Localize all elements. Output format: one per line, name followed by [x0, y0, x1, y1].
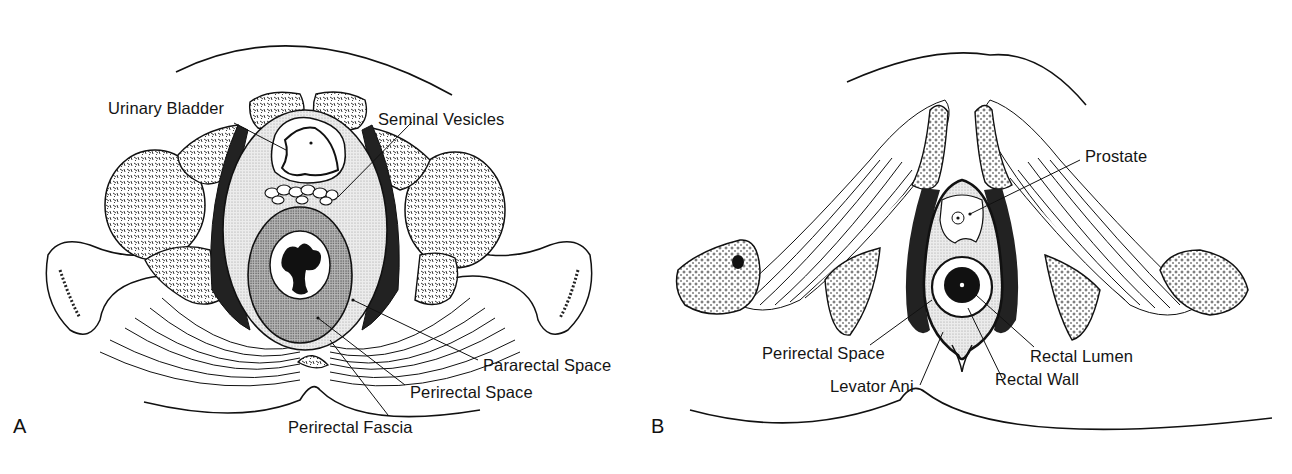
label-levator-ani: Levator Ani — [830, 378, 914, 395]
body-contour-top — [847, 53, 1086, 105]
label-pararectal-space: Pararectal Space — [483, 357, 611, 374]
left-ischium — [145, 247, 220, 304]
body-contour-top — [176, 46, 452, 95]
label-seminal-vesicles: Seminal Vesicles — [378, 111, 504, 128]
panel-b-illustration — [640, 0, 1292, 474]
panel-letter-b: B — [651, 416, 664, 436]
label-perirectal-space: Perirectal Space — [762, 345, 885, 362]
panel-a-pelvic-cross-section: Urinary Bladder Seminal Vesicles Pararec… — [0, 0, 640, 474]
label-prostate: Prostate — [1085, 148, 1147, 165]
panel-letter-a: A — [13, 416, 26, 436]
label-rectal-lumen: Rectal Lumen — [1030, 348, 1133, 365]
panel-a-illustration — [0, 0, 640, 474]
right-ischium — [415, 253, 458, 304]
label-urinary-bladder: Urinary Bladder — [108, 100, 224, 117]
body-contour-bottom — [690, 388, 1272, 429]
label-rectal-wall: Rectal Wall — [995, 371, 1079, 388]
coccyx — [298, 356, 328, 368]
panel-b-pelvic-cross-section: Prostate Perirectal Space Levator Ani Re… — [640, 0, 1292, 474]
label-perirectal-fascia: Perirectal Fascia — [288, 419, 413, 436]
left-femur-bone — [677, 240, 760, 314]
label-perirectal-space: Perirectal Space — [410, 384, 533, 401]
